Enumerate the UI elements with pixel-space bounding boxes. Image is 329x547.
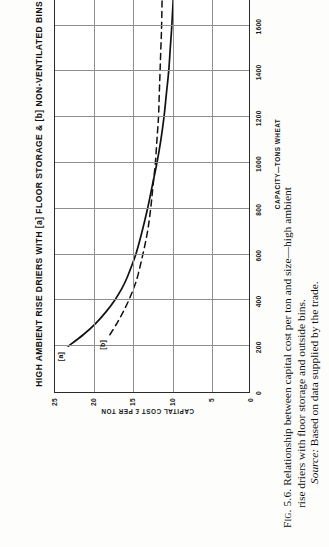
x-tick-label: 0 (255, 391, 262, 395)
gridline-vertical (55, 116, 249, 117)
caption-source-label: Source: (308, 449, 320, 484)
curve-label-a: [a] (57, 352, 64, 361)
caption-line-1: Relationship between capital cost per to… (281, 187, 293, 486)
chart-title: HIGH AMBIENT RISE DRIERS WITH [a] FLOOR … (34, 0, 44, 427)
gridline-vertical (55, 345, 249, 346)
curve-series-a (68, 0, 175, 346)
gridline-vertical (55, 70, 249, 71)
caption-line-2: rise driers with floor storage and outsi… (295, 299, 307, 508)
y-axis-title: CAPITAL COST £ PER TON (57, 408, 237, 415)
gridline-vertical (55, 254, 249, 255)
gridline-horizontal (133, 0, 134, 392)
y-tick-label: 25 (50, 398, 57, 419)
x-tick-label: 1200 (255, 110, 262, 126)
y-tick-label: 0 (246, 398, 253, 419)
curve-series-b (109, 0, 162, 335)
gridline-vertical (55, 25, 249, 26)
gridline-vertical (55, 208, 249, 209)
gridline-vertical (55, 299, 249, 300)
x-axis-title: CAPACITY—TONS WHEAT (274, 0, 281, 393)
figure-page: HIGH AMBIENT RISE DRIERS WITH [a] FLOOR … (0, 0, 329, 547)
x-tick-label: 200 (255, 341, 262, 353)
x-tick-label: 1400 (255, 64, 262, 80)
gridline-vertical (55, 162, 249, 163)
gridline-horizontal (94, 0, 95, 392)
x-tick-label: 1000 (255, 156, 262, 172)
gridline-horizontal (211, 0, 212, 392)
chart-figure: HIGH AMBIENT RISE DRIERS WITH [a] FLOOR … (34, 0, 296, 427)
rotated-figure-wrapper: HIGH AMBIENT RISE DRIERS WITH [a] FLOOR … (0, 0, 329, 547)
caption-figure-number: Fig. 5.6. (281, 489, 293, 528)
curve-label-b: [b] (98, 340, 105, 350)
x-tick-label: 1600 (255, 19, 262, 35)
plot-area (54, 0, 250, 393)
figure-caption: Fig. 5.6. Relationship between capital c… (281, 20, 321, 528)
x-tick-label: 400 (255, 295, 262, 307)
caption-line-3: Based on data supplied by the trade. (308, 281, 320, 446)
gridline-horizontal (172, 0, 173, 392)
series-curves (55, 0, 251, 392)
x-tick-label: 600 (255, 250, 262, 262)
x-tick-label: 800 (255, 204, 262, 216)
